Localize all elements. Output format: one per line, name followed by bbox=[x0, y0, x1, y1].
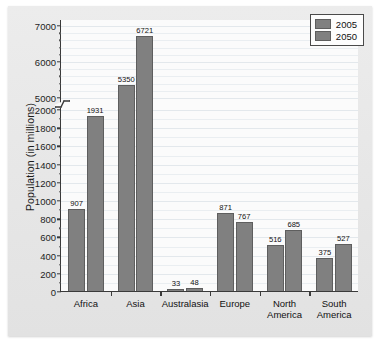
gridline bbox=[61, 128, 358, 129]
y-axis-tick-mark bbox=[57, 255, 61, 256]
y-axis-minor-tick bbox=[59, 155, 62, 156]
y-axis-minor-tick bbox=[59, 137, 62, 138]
bar bbox=[285, 230, 302, 291]
bar-value-label: 685 bbox=[287, 220, 300, 229]
x-axis-tick-mark bbox=[160, 291, 161, 296]
y-axis-tick-label: 1200 bbox=[35, 177, 56, 188]
legend-swatch-2050 bbox=[315, 31, 331, 41]
y-axis-minor-tick bbox=[59, 191, 62, 192]
gridline bbox=[61, 192, 358, 193]
plot-inner: 9071931535067213348871767516685375527 bbox=[61, 20, 358, 291]
bar-value-label: 767 bbox=[238, 212, 251, 221]
gridline bbox=[61, 62, 358, 63]
y-axis-minor-tick bbox=[59, 68, 62, 69]
y-axis-minor-tick bbox=[59, 228, 62, 229]
bar bbox=[167, 289, 184, 291]
y-axis-tick-label: 2000 bbox=[35, 105, 56, 116]
bar-value-label: 33 bbox=[172, 279, 180, 288]
legend-item-2050: 2050 bbox=[315, 30, 357, 42]
x-axis-tick-label: North America bbox=[267, 298, 302, 320]
y-axis-minor-tick bbox=[59, 209, 62, 210]
gridline bbox=[61, 48, 358, 49]
gridline bbox=[61, 183, 358, 184]
bar-value-label: 5350 bbox=[118, 75, 135, 84]
bar-value-label: 527 bbox=[337, 234, 350, 243]
gridline bbox=[61, 76, 358, 77]
bar bbox=[217, 213, 234, 291]
bar-value-label: 516 bbox=[269, 235, 282, 244]
chart-legend: 2005 2050 bbox=[310, 14, 364, 46]
y-axis-minor-tick bbox=[59, 173, 62, 174]
y-axis-minor-tick bbox=[59, 264, 62, 265]
bar bbox=[335, 244, 352, 291]
y-axis-minor-tick bbox=[59, 40, 62, 41]
y-axis-minor-tick bbox=[59, 282, 62, 283]
bar bbox=[186, 288, 203, 291]
y-axis-minor-tick bbox=[59, 90, 62, 91]
y-axis-tick-label: 1400 bbox=[35, 159, 56, 170]
y-axis-tick-label: 800 bbox=[40, 214, 56, 225]
bar bbox=[267, 245, 284, 291]
y-axis-tick-mark bbox=[57, 25, 61, 26]
bar-value-label: 375 bbox=[319, 248, 332, 257]
x-axis-tick-label: South America bbox=[317, 298, 352, 320]
bar-value-label: 6721 bbox=[136, 26, 153, 35]
gridline bbox=[61, 91, 358, 92]
y-axis-tick-label: 1000 bbox=[35, 196, 56, 207]
plot-area: 9071931535067213348871767516685375527 02… bbox=[60, 20, 358, 292]
gridline bbox=[61, 110, 358, 111]
y-axis-minor-tick bbox=[59, 83, 62, 84]
x-axis-tick-label: Africa bbox=[74, 298, 98, 309]
x-axis-tick-mark bbox=[111, 291, 112, 296]
y-axis-minor-tick bbox=[59, 76, 62, 77]
y-axis-tick-label: 600 bbox=[40, 232, 56, 243]
legend-item-2005: 2005 bbox=[315, 18, 357, 30]
x-axis-tick-mark bbox=[309, 291, 310, 296]
legend-label-2005: 2005 bbox=[336, 19, 357, 30]
y-axis-tick-label: 6000 bbox=[35, 57, 56, 68]
x-axis-tick-label: Asia bbox=[126, 298, 144, 309]
y-axis-minor-tick bbox=[59, 118, 62, 119]
gridline bbox=[61, 237, 358, 238]
y-axis-tick-mark bbox=[57, 61, 61, 62]
gridline bbox=[61, 84, 358, 85]
y-axis-tick-mark bbox=[57, 146, 61, 147]
y-axis-tick-mark bbox=[57, 127, 61, 128]
x-axis-tick-label: Australasia bbox=[162, 298, 209, 309]
gridline bbox=[61, 210, 358, 211]
gridline bbox=[61, 98, 358, 99]
bar-value-label: 871 bbox=[219, 203, 232, 212]
figure-card: Population (in millions) 2005 2050 90719… bbox=[8, 6, 372, 336]
gridline bbox=[61, 228, 358, 229]
gridline bbox=[61, 137, 358, 138]
gridline bbox=[61, 55, 358, 56]
gridline bbox=[61, 119, 358, 120]
bar-value-label: 907 bbox=[70, 199, 83, 208]
axis-break-icon bbox=[55, 97, 70, 111]
y-axis-tick-label: 0 bbox=[51, 287, 56, 298]
x-axis-tick-label: Europe bbox=[220, 298, 251, 309]
legend-swatch-2005 bbox=[315, 19, 331, 29]
bar bbox=[87, 116, 104, 291]
gridline bbox=[61, 146, 358, 147]
bar bbox=[68, 209, 85, 291]
bar-value-label: 1931 bbox=[87, 106, 104, 115]
y-axis-tick-label: 200 bbox=[40, 268, 56, 279]
x-axis-tick-mark bbox=[260, 291, 261, 296]
y-axis-minor-tick bbox=[59, 246, 62, 247]
bar bbox=[316, 258, 333, 291]
bar bbox=[236, 222, 253, 291]
y-axis-tick-mark bbox=[57, 291, 61, 292]
y-axis-tick-mark bbox=[57, 237, 61, 238]
gridline bbox=[61, 283, 358, 284]
gridline bbox=[61, 274, 358, 275]
gridline bbox=[61, 219, 358, 220]
y-axis-minor-tick bbox=[59, 32, 62, 33]
gridline bbox=[61, 156, 358, 157]
y-axis-tick-mark bbox=[57, 182, 61, 183]
gridline bbox=[61, 247, 358, 248]
y-axis-tick-mark bbox=[57, 200, 61, 201]
gridline bbox=[61, 69, 358, 70]
gridline bbox=[61, 165, 358, 166]
y-axis-tick-label: 1800 bbox=[35, 123, 56, 134]
